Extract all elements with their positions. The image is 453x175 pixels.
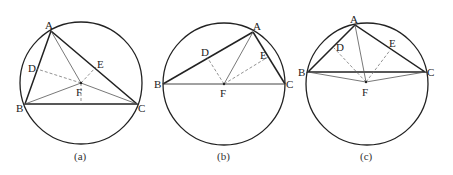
segment-fc-a xyxy=(81,83,137,104)
label-c-c: C xyxy=(427,66,434,78)
perp-fd-c xyxy=(334,48,366,82)
label-f-b: F xyxy=(220,87,226,99)
segment-fc-c xyxy=(366,72,425,82)
point-f-c xyxy=(365,81,367,83)
perp-fe-b xyxy=(224,57,268,84)
segment-fb-a xyxy=(25,83,81,104)
caption-b: (b) xyxy=(217,150,230,163)
perp-fe-a xyxy=(81,67,96,83)
point-f-a xyxy=(80,82,82,84)
label-d-b: D xyxy=(201,46,209,58)
label-e-a: E xyxy=(97,58,104,70)
label-a-a: A xyxy=(45,19,53,31)
diagram-b: A B C D E F (b) xyxy=(154,20,293,163)
label-a-b: A xyxy=(253,20,261,32)
label-b-c: B xyxy=(298,66,305,78)
label-e-b: E xyxy=(260,49,267,61)
circumcircle-c xyxy=(306,23,428,145)
label-b-b: B xyxy=(154,78,161,90)
perp-fe-c xyxy=(366,49,391,82)
label-b-a: B xyxy=(16,102,23,114)
perp-fd-b xyxy=(207,57,224,84)
diagram-c: A B C D E F (c) xyxy=(298,13,434,163)
label-e-c: E xyxy=(389,37,396,49)
geometry-figure: A B C D E F (a) A B C D E F (b) A B xyxy=(0,0,453,175)
label-d-a: D xyxy=(28,62,36,74)
diagram-a: A B C D E F (a) xyxy=(16,19,145,163)
label-c-a: C xyxy=(138,102,145,114)
label-c-b: C xyxy=(286,78,293,90)
caption-c: (c) xyxy=(360,150,373,163)
segment-fa-c xyxy=(355,25,366,82)
label-d-c: D xyxy=(336,41,344,53)
label-f-c: F xyxy=(362,86,368,98)
segment-fb-c xyxy=(308,72,366,82)
segment-ac-b xyxy=(253,32,285,84)
triangle-abc-c xyxy=(308,25,425,72)
label-f-a: F xyxy=(76,86,82,98)
point-f-b xyxy=(223,83,225,85)
caption-a: (a) xyxy=(74,150,87,163)
label-a-c: A xyxy=(350,13,358,25)
